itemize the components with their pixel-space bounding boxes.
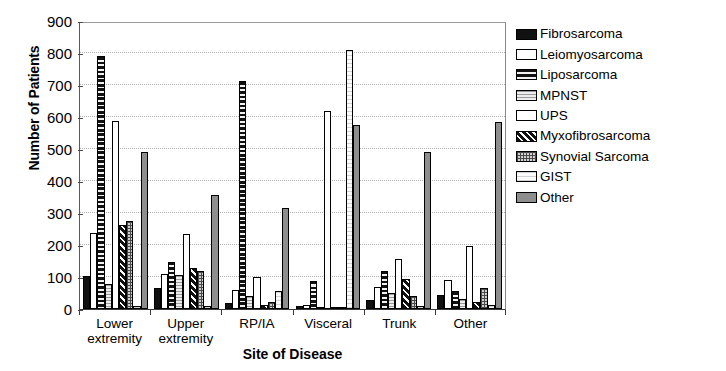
bar (183, 234, 190, 309)
y-tick-label: 900 (26, 14, 72, 29)
legend-item: GIST (516, 167, 724, 187)
legend-swatch-icon (516, 151, 537, 162)
legend-swatch-icon (516, 131, 537, 142)
y-tick-mark (78, 182, 83, 183)
bar (282, 208, 289, 309)
x-tick-label-line: extremity (150, 331, 221, 346)
legend: FibrosarcomaLeiomyosarcomaLiposarcomaMPN… (516, 24, 724, 208)
bar (410, 296, 417, 309)
x-tick-label-line: Lower (79, 316, 150, 331)
legend-item-label: GIST (540, 170, 572, 184)
y-tick-label: 300 (26, 206, 72, 221)
x-tick-label-line: Other (435, 316, 506, 331)
bar (133, 306, 140, 309)
y-tick-mark (78, 150, 83, 151)
bar (317, 307, 324, 309)
legend-swatch-icon (516, 90, 537, 101)
bar (83, 276, 90, 309)
bar (480, 288, 487, 309)
bar (324, 111, 331, 309)
bar-groups (80, 23, 505, 309)
y-tick-mark (78, 278, 83, 279)
legend-item-label: Leiomyosarcoma (540, 48, 643, 62)
y-tick-label: 0 (26, 302, 72, 317)
bar (424, 152, 431, 309)
y-tick-label: 700 (26, 78, 72, 93)
legend-item: Liposarcoma (516, 65, 724, 85)
legend-item-label: Other (540, 191, 574, 205)
legend-item-label: Synovial Sarcoma (540, 150, 649, 164)
bar (275, 291, 282, 309)
legend-item: Leiomyosarcoma (516, 44, 724, 64)
bar (97, 56, 104, 309)
bar (366, 300, 373, 309)
bar (473, 302, 480, 309)
bar (268, 302, 275, 309)
y-axis-tick-labels: 9008007006005004003002001000 (24, 0, 72, 371)
bar (190, 268, 197, 309)
bar (204, 306, 211, 309)
bar (105, 284, 112, 309)
bar (452, 291, 459, 309)
y-tick-label: 600 (26, 110, 72, 125)
y-tick-mark (78, 214, 83, 215)
y-tick-mark (78, 246, 83, 247)
legend-item: Fibrosarcoma (516, 24, 724, 44)
bar (119, 225, 126, 309)
x-tick-label-line: Visceral (293, 316, 364, 331)
bar-group (151, 23, 222, 309)
legend-swatch-icon (516, 192, 537, 203)
bar (402, 279, 409, 309)
legend-swatch-icon (516, 69, 537, 80)
legend-item-label: UPS (540, 109, 568, 123)
bar (141, 152, 148, 309)
y-tick-mark (78, 118, 83, 119)
bar (225, 303, 232, 309)
legend-item: Myxofibrosarcoma (516, 126, 724, 146)
x-tick-label-line: Trunk (364, 316, 435, 331)
bar (154, 288, 161, 309)
bar (437, 295, 444, 309)
bar (197, 271, 204, 309)
legend-swatch-icon (516, 29, 537, 40)
bar (232, 290, 239, 309)
bar (381, 271, 388, 309)
bar (417, 306, 424, 309)
x-axis-title: Site of Disease (79, 346, 506, 362)
legend-item-label: Fibrosarcoma (540, 27, 623, 41)
bar (374, 287, 381, 309)
bar-group (434, 23, 505, 309)
legend-swatch-icon (516, 171, 537, 182)
bar-group (363, 23, 434, 309)
bar (211, 195, 218, 309)
bar (126, 221, 133, 309)
bar-group (80, 23, 151, 309)
bar (310, 281, 317, 309)
y-tick-label: 800 (26, 46, 72, 61)
bar (261, 305, 268, 309)
bar (488, 305, 495, 309)
legend-swatch-icon (516, 49, 537, 60)
bar (388, 293, 395, 309)
bar-chart-figure: Number of Patients 900800700600500400300… (0, 0, 726, 371)
legend-item-label: MPNST (540, 89, 587, 103)
legend-item-label: Myxofibrosarcoma (540, 129, 650, 143)
bar (112, 121, 119, 309)
bar (246, 296, 253, 309)
y-tick-label: 400 (26, 174, 72, 189)
bar (175, 275, 182, 309)
y-tick-mark (78, 22, 83, 23)
bar (253, 277, 260, 309)
legend-item-label: Liposarcoma (540, 68, 617, 82)
bar (495, 122, 502, 309)
bar (353, 125, 360, 309)
y-tick-mark (78, 54, 83, 55)
bar (395, 259, 402, 309)
bar (331, 307, 338, 309)
bar (444, 280, 451, 309)
bar (346, 50, 353, 309)
bar (296, 306, 303, 309)
legend-item: Other (516, 187, 724, 207)
bar (168, 262, 175, 309)
plot-area (79, 22, 506, 310)
